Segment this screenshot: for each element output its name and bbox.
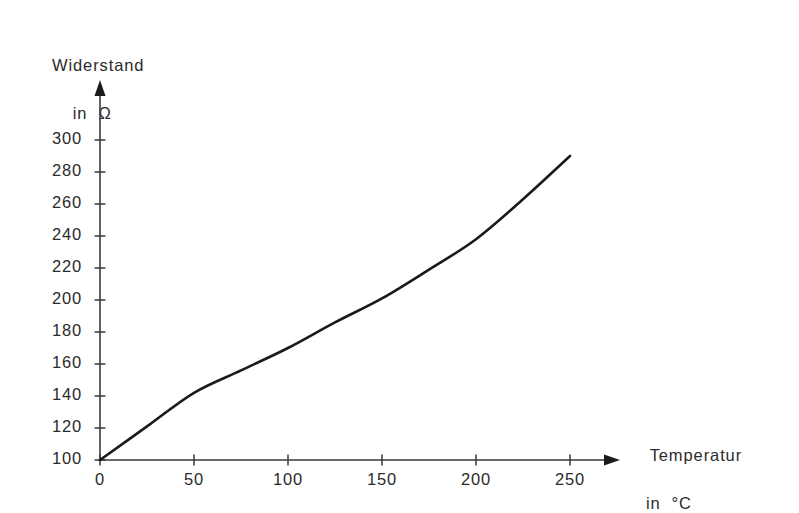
x-axis-tick-label: 50 xyxy=(164,470,224,489)
y-axis-tick-label: 220 xyxy=(22,257,82,276)
y-axis-tick-label: 120 xyxy=(22,417,82,436)
x-axis-tick-label: 250 xyxy=(540,470,600,489)
y-axis-tick-label: 240 xyxy=(22,225,82,244)
y-axis-tick-label: 280 xyxy=(22,161,82,180)
x-axis-tick-label: 200 xyxy=(446,470,506,489)
y-axis-tick-label: 260 xyxy=(22,193,82,212)
resistance-curve xyxy=(100,156,570,460)
y-axis-tick-label: 100 xyxy=(22,449,82,468)
y-axis-tick-label: 180 xyxy=(22,321,82,340)
y-axis-arrow-icon xyxy=(95,80,106,96)
y-axis-tick-label: 200 xyxy=(22,289,82,308)
x-axis-arrow-icon xyxy=(604,455,620,466)
y-axis-tick-label: 140 xyxy=(22,385,82,404)
y-axis-tick-label: 160 xyxy=(22,353,82,372)
x-axis-tick-label: 150 xyxy=(352,470,412,489)
y-axis-tick-label: 300 xyxy=(22,129,82,148)
x-axis-tick-label: 100 xyxy=(258,470,318,489)
x-axis-tick-label: 0 xyxy=(70,470,130,489)
